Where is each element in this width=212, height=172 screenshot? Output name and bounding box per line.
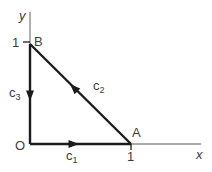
point-a-label: A [132, 126, 141, 139]
curve-c1-label: c1 [66, 149, 78, 165]
figure-canvas [0, 0, 212, 172]
x-tick-value-1: 1 [127, 150, 134, 163]
curve-c3-arrowhead-icon [26, 91, 34, 102]
point-b-label: B [34, 35, 43, 48]
curve-c1-arrowhead-icon [69, 140, 80, 148]
x-axis-label: x [196, 148, 203, 161]
curve-c2-label: c2 [93, 79, 105, 95]
curve-c3-label: c3 [9, 86, 21, 102]
triangle-contour-figure: y x 1 B O A 1 c1 c2 c3 [0, 0, 212, 172]
y-axis-label: y [19, 9, 26, 22]
y-tick-value-1: 1 [12, 36, 19, 49]
origin-label: O [15, 139, 25, 152]
curve-c2-segment [30, 44, 131, 144]
